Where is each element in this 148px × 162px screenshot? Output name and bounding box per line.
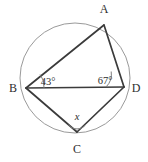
geometry-diagram-container: A B C D 43° 67° x: [0, 0, 148, 162]
segment-bd-diagonal: [26, 87, 124, 88]
vertex-label-c: C: [73, 142, 81, 156]
angle-measure-label-d: 67°: [98, 75, 113, 86]
angle-measure-label-c: x: [74, 111, 80, 122]
vertex-label-a: A: [100, 2, 109, 16]
angle-measure-label-b: 43°: [41, 76, 56, 87]
segment-ab: [26, 25, 104, 88]
vertex-label-d: D: [132, 81, 141, 95]
cyclic-quadrilateral-figure: A B C D 43° 67° x: [0, 0, 148, 162]
segment-cd: [77, 87, 124, 132]
vertex-label-b: B: [9, 81, 17, 95]
